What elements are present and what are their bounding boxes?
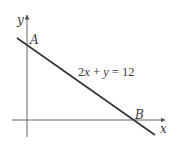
point-b-label: B (134, 108, 144, 122)
equation-label: 2x + y = 12 (78, 65, 135, 79)
y-axis-label: y (16, 13, 24, 27)
point-a-label: A (29, 33, 39, 47)
coordinate-diagram: y x A B 2x + y = 12 (0, 0, 178, 144)
x-axis-label: x (160, 122, 167, 136)
